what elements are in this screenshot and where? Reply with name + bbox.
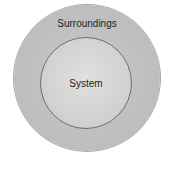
system-label: System — [69, 78, 102, 89]
surroundings-label: Surroundings — [57, 18, 116, 29]
